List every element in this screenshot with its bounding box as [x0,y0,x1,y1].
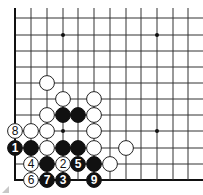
star-point-icon [61,33,65,37]
black-stone-icon [87,157,102,172]
move-number-label: 7 [44,173,51,187]
white-stone-icon [40,141,55,156]
go-board: 814256739 [0,0,203,195]
move-number-label: 2 [60,157,67,171]
white-stone-icon [40,76,55,91]
white-stone-icon [56,92,71,107]
white-stone-icon [40,108,55,123]
move-number-label: 8 [12,124,19,138]
white-stone-icon [87,124,102,139]
white-stone-4: 4 [24,157,39,172]
black-stone [87,157,102,172]
black-stone [71,141,86,156]
white-stone [40,124,55,139]
black-stone-icon [40,157,55,172]
black-stone [56,108,71,123]
black-stone-icon [71,141,86,156]
white-stone-6: 6 [24,173,39,188]
white-stone-icon [87,108,102,123]
white-stone-icon [24,124,39,139]
white-stone-icon [103,157,118,172]
black-stone-icon [56,141,71,156]
black-stone [24,141,39,156]
move-number-label: 5 [75,157,82,171]
white-stone-2: 2 [56,157,71,172]
corner-arrow-icon [2,186,9,193]
black-stone-icon [56,108,71,123]
black-stone-icon [24,141,39,156]
white-stone [87,124,102,139]
black-stone-7: 7 [40,173,55,188]
white-stone [56,92,71,107]
white-stone [40,108,55,123]
white-stone-icon [119,141,134,156]
white-stone [119,141,134,156]
move-number-label: 9 [91,173,98,187]
white-stone-icon [87,92,102,107]
white-stone-icon [87,141,102,156]
star-point-icon [155,129,159,133]
move-number-label: 1 [12,141,19,155]
white-stone [87,141,102,156]
black-stone-5: 5 [71,157,86,172]
black-stone [40,157,55,172]
black-stone [56,141,71,156]
black-stone-3: 3 [56,173,71,188]
star-point-icon [155,33,159,37]
white-stone-icon [40,124,55,139]
white-stone [24,124,39,139]
white-stone-8: 8 [8,124,23,139]
grid-lines [15,8,203,181]
move-number-label: 3 [60,173,67,187]
white-stone [87,92,102,107]
move-number-label: 4 [28,157,35,171]
black-stone-9: 9 [87,173,102,188]
star-point-icon [61,129,65,133]
black-stone-1: 1 [8,141,23,156]
black-stone [71,108,86,123]
white-stone [40,76,55,91]
white-stone [103,157,118,172]
move-number-label: 6 [28,173,35,187]
white-stone [40,141,55,156]
white-stone [87,108,102,123]
black-stone-icon [71,108,86,123]
